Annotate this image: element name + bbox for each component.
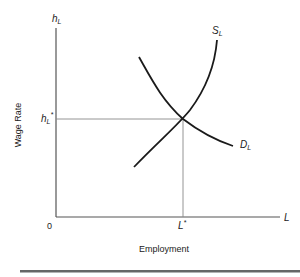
equilibrium-employment-label: L* bbox=[178, 219, 187, 231]
x-axis-symbol: L bbox=[284, 212, 290, 223]
y-axis-label: Wage Rate bbox=[13, 103, 23, 148]
demand-curve-label: DL bbox=[240, 139, 251, 151]
y-axis-symbol: hL bbox=[52, 13, 62, 25]
bottom-rule bbox=[20, 270, 300, 273]
origin-label: 0 bbox=[47, 221, 52, 231]
supply-curve-label: SL bbox=[212, 25, 223, 37]
x-axis-label: Employment bbox=[139, 244, 190, 254]
demand-curve bbox=[139, 57, 233, 146]
supply-curve bbox=[134, 40, 217, 167]
labor-market-chart: hL L 0 Wage Rate Employment hL* L* SL DL bbox=[0, 0, 300, 277]
equilibrium-wage-label: hL* bbox=[41, 111, 53, 125]
